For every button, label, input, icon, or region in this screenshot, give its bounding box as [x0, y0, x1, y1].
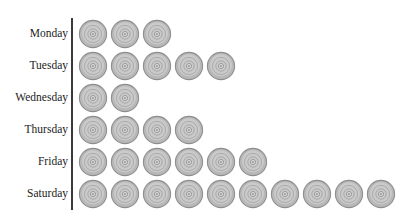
chart-row: Tuesday [0, 50, 394, 82]
disc-icon [78, 147, 108, 177]
disc-icon [174, 147, 204, 177]
disc-icon [334, 179, 364, 209]
disc-icon [238, 147, 268, 177]
chart-row: Wednesday [0, 82, 394, 114]
row-icon-group [78, 178, 398, 210]
disc-icon [302, 179, 332, 209]
disc-icon [110, 83, 140, 113]
chart-row: Saturday [0, 178, 394, 210]
chart-row: Friday [0, 146, 394, 178]
disc-icon [142, 19, 172, 49]
row-label-saturday: Saturday [0, 188, 68, 200]
disc-icon [110, 51, 140, 81]
disc-icon [174, 179, 204, 209]
row-icon-group [78, 50, 238, 82]
disc-icon [78, 83, 108, 113]
disc-icon [78, 51, 108, 81]
disc-icon [174, 51, 204, 81]
row-label-thursday: Thursday [0, 124, 68, 136]
row-icon-group [78, 18, 174, 50]
row-icon-group [78, 146, 270, 178]
disc-icon [270, 179, 300, 209]
row-label-friday: Friday [0, 156, 68, 168]
disc-icon [366, 179, 396, 209]
disc-icon [206, 51, 236, 81]
disc-icon [142, 179, 172, 209]
row-label-wednesday: Wednesday [0, 92, 68, 104]
chart-rows-container: MondayTuesdayWednesdayThursdayFridaySatu… [0, 18, 394, 210]
chart-row: Monday [0, 18, 394, 50]
row-icon-group [78, 114, 206, 146]
disc-icon [78, 19, 108, 49]
row-label-tuesday: Tuesday [0, 60, 68, 72]
disc-icon [110, 115, 140, 145]
disc-icon [206, 179, 236, 209]
disc-icon [142, 51, 172, 81]
row-icon-group [78, 82, 142, 114]
disc-icon [110, 147, 140, 177]
disc-icon [206, 147, 236, 177]
disc-icon [110, 179, 140, 209]
row-label-monday: Monday [0, 28, 68, 40]
disc-icon [110, 19, 140, 49]
disc-icon [78, 179, 108, 209]
disc-icon [174, 115, 204, 145]
disc-icon [238, 179, 268, 209]
chart-row: Thursday [0, 114, 394, 146]
disc-icon [78, 115, 108, 145]
disc-icon [142, 147, 172, 177]
disc-icon [142, 115, 172, 145]
